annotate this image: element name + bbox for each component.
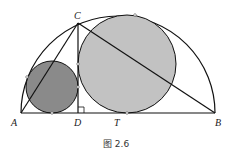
right-angle-mark: [78, 107, 84, 113]
geometry-diagram: A B C D T 图 2.6: [0, 0, 233, 156]
figure-caption: 图 2.6: [103, 139, 129, 149]
label-C: C: [74, 10, 81, 21]
small-inscribed-circle: [26, 61, 78, 113]
label-A: A: [10, 117, 18, 128]
figure: A B C D T 图 2.6: [0, 0, 233, 156]
label-B: B: [215, 117, 221, 128]
label-D: D: [73, 117, 82, 128]
label-T: T: [114, 117, 121, 128]
large-inscribed-circle: [78, 15, 176, 113]
